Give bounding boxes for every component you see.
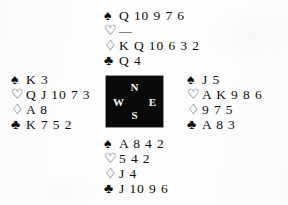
west-diamonds-cards: A 8	[24, 102, 48, 117]
club-icon: ♣	[187, 117, 200, 132]
heart-icon: ♡	[104, 151, 117, 166]
east-clubs-cards: A 8 3	[200, 117, 236, 132]
east-hearts-cards: A K 9 8 6	[200, 87, 263, 102]
spade-icon: ♠	[104, 8, 117, 23]
hand-east: ♠ J 5 ♡ A K 9 8 6 ♢ 9 7 5 ♣ A 8 3	[187, 72, 263, 132]
heart-icon: ♡	[11, 87, 24, 102]
spade-icon: ♠	[104, 136, 117, 151]
west-clubs-cards: K 7 5 2	[24, 117, 72, 132]
spade-icon: ♠	[11, 72, 24, 87]
west-diamonds-line: ♢ A 8	[11, 102, 91, 117]
hand-west: ♠ K 3 ♡ Q J 10 7 3 ♢ A 8 ♣ K 7 5 2	[11, 72, 91, 132]
west-spades-line: ♠ K 3	[11, 72, 91, 87]
south-spades-cards: A 8 4 2	[117, 136, 165, 151]
diamond-icon: ♢	[104, 38, 117, 53]
diamond-icon: ♢	[104, 166, 117, 181]
west-hearts-line: ♡ Q J 10 7 3	[11, 87, 91, 102]
club-icon: ♣	[11, 117, 24, 132]
north-spades-line: ♠ Q 10 9 7 6	[104, 8, 200, 23]
diamond-icon: ♢	[187, 102, 200, 117]
heart-icon: ♡	[104, 23, 117, 38]
hand-south: ♠ A 8 4 2 ♡ 5 4 2 ♢ J 4 ♣ J 10 9 6	[104, 136, 169, 196]
east-hearts-line: ♡ A K 9 8 6	[187, 87, 263, 102]
north-hearts-line: ♡ —	[104, 23, 200, 38]
north-diamonds-line: ♢ K Q 10 6 3 2	[104, 38, 200, 53]
spade-icon: ♠	[187, 72, 200, 87]
diamond-icon: ♢	[11, 102, 24, 117]
hand-north: ♠ Q 10 9 7 6 ♡ — ♢ K Q 10 6 3 2 ♣ Q 4	[104, 8, 200, 68]
compass-box: N W E S	[106, 76, 163, 127]
compass-south-label: S	[131, 110, 137, 121]
compass-north-label: N	[131, 82, 139, 93]
compass-west-label: W	[113, 96, 124, 107]
club-icon: ♣	[104, 53, 117, 68]
east-spades-cards: J 5	[200, 72, 220, 87]
south-diamonds-line: ♢ J 4	[104, 166, 169, 181]
south-hearts-line: ♡ 5 4 2	[104, 151, 169, 166]
south-spades-line: ♠ A 8 4 2	[104, 136, 169, 151]
club-icon: ♣	[104, 181, 117, 196]
east-diamonds-line: ♢ 9 7 5	[187, 102, 263, 117]
south-hearts-cards: 5 4 2	[117, 151, 151, 166]
north-clubs-cards: Q 4	[117, 53, 142, 68]
west-spades-cards: K 3	[24, 72, 49, 87]
west-clubs-line: ♣ K 7 5 2	[11, 117, 91, 132]
compass-east-label: E	[149, 96, 156, 107]
heart-icon: ♡	[187, 87, 200, 102]
north-spades-cards: Q 10 9 7 6	[117, 8, 185, 23]
south-clubs-cards: J 10 9 6	[117, 181, 169, 196]
west-hearts-cards: Q J 10 7 3	[24, 87, 91, 102]
north-diamonds-cards: K Q 10 6 3 2	[117, 38, 200, 53]
south-diamonds-cards: J 4	[117, 166, 137, 181]
north-hearts-cards: —	[117, 23, 132, 38]
bridge-deal-diagram: ♠ Q 10 9 7 6 ♡ — ♢ K Q 10 6 3 2 ♣ Q 4 ♠ …	[0, 0, 288, 205]
south-clubs-line: ♣ J 10 9 6	[104, 181, 169, 196]
east-spades-line: ♠ J 5	[187, 72, 263, 87]
east-diamonds-cards: 9 7 5	[200, 102, 234, 117]
north-clubs-line: ♣ Q 4	[104, 53, 200, 68]
east-clubs-line: ♣ A 8 3	[187, 117, 263, 132]
